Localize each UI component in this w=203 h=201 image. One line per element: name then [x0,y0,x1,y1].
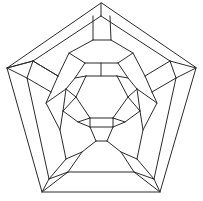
graph-canvas [0,0,203,201]
figure-background [0,0,203,201]
schlegel-diagram-figure [0,0,203,201]
